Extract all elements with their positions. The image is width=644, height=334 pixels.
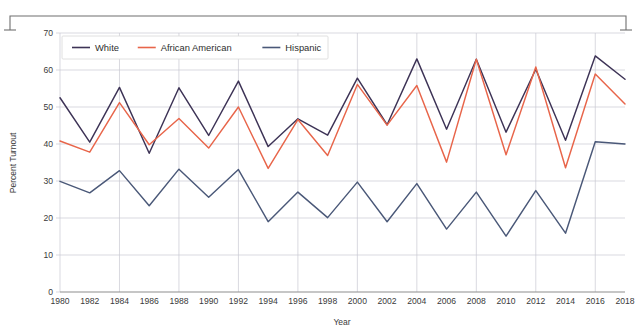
x-tick-label: 1984 — [110, 296, 129, 306]
x-tick-label: 2014 — [556, 296, 575, 306]
legend-label-african-american: African American — [161, 42, 232, 53]
x-tick-label: 1992 — [229, 296, 248, 306]
x-tick-label: 2018 — [615, 296, 634, 306]
x-tick-label: 2000 — [348, 296, 367, 306]
gridlines — [60, 33, 625, 292]
x-tick-label: 2004 — [407, 296, 426, 306]
x-tick-label: 2006 — [437, 296, 456, 306]
y-tick-label: 30 — [43, 176, 53, 186]
legend-label-hispanic: Hispanic — [285, 42, 321, 53]
y-tick-label: 50 — [43, 102, 53, 112]
y-tick-label: 60 — [43, 65, 53, 75]
y-axis-label: Percent Turnout — [8, 132, 18, 193]
y-tick-label: 20 — [43, 213, 53, 223]
x-tick-label: 2012 — [526, 296, 545, 306]
decorative-bracket — [10, 16, 626, 30]
data-series-group — [60, 56, 625, 236]
y-tick-label: 70 — [43, 28, 53, 38]
x-tick-label: 1982 — [80, 296, 99, 306]
x-tick-label: 1996 — [288, 296, 307, 306]
x-tick-label: 1980 — [50, 296, 69, 306]
x-axis-ticks: 1980198219841986198819901992199419961998… — [50, 296, 634, 306]
y-tick-label: 10 — [43, 250, 53, 260]
x-axis-label: Year — [333, 317, 350, 327]
line-chart: 010203040506070 198019821984198619881990… — [0, 0, 644, 334]
x-tick-label: 1988 — [169, 296, 188, 306]
x-tick-label: 1998 — [318, 296, 337, 306]
x-tick-label: 2016 — [586, 296, 605, 306]
chart-legend: WhiteAfrican AmericanHispanic — [62, 36, 328, 59]
x-tick-label: 1986 — [140, 296, 159, 306]
series-line-hispanic — [60, 142, 625, 236]
chart-figure: 010203040506070 198019821984198619881990… — [0, 0, 644, 334]
x-tick-label: 2010 — [496, 296, 515, 306]
x-tick-label: 2002 — [378, 296, 397, 306]
y-tick-label: 40 — [43, 139, 53, 149]
y-axis-ticks: 010203040506070 — [43, 28, 60, 297]
x-tick-label: 1990 — [199, 296, 218, 306]
series-line-african-american — [60, 59, 625, 168]
x-tick-label: 2008 — [467, 296, 486, 306]
x-tick-label: 1994 — [259, 296, 278, 306]
legend-label-white: White — [95, 42, 119, 53]
